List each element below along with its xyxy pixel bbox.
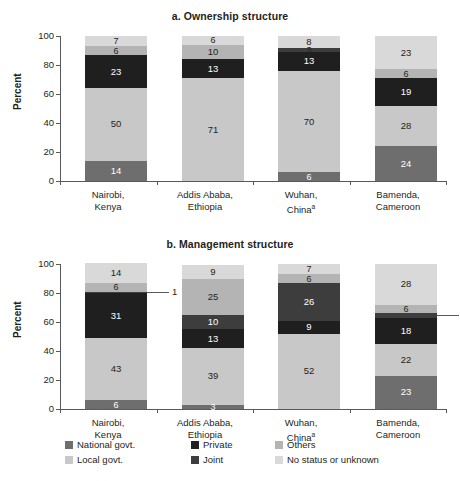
- stacked-bar[interactable]: 9251013393: [182, 265, 244, 409]
- bar-segment[interactable]: 52: [278, 334, 340, 409]
- x-tick-mark: [446, 409, 447, 413]
- panel-b-plot-area: 020406080100 146314369251013393762695228…: [60, 264, 446, 409]
- chart-panel-ownership-structure: a. Ownership structure Percent 020406080…: [0, 0, 460, 228]
- bar-segment[interactable]: 26: [278, 283, 340, 321]
- legend-swatch-icon: [275, 441, 283, 449]
- segment-value-label: 6: [375, 304, 437, 313]
- bar-segment[interactable]: 22: [375, 344, 437, 376]
- segment-value-label: 8: [278, 37, 340, 47]
- bar-segment[interactable]: 6: [85, 400, 147, 409]
- bar-segment[interactable]: 71: [182, 78, 244, 181]
- legend-swatch-icon: [275, 456, 283, 464]
- bar-segment[interactable]: 23: [375, 36, 437, 69]
- panel-b-y-axis-label: Percent: [12, 301, 23, 338]
- bar-segment[interactable]: 6: [278, 172, 340, 181]
- segment-value-label: 10: [182, 47, 244, 57]
- bar-segment[interactable]: 14: [85, 161, 147, 181]
- legend-item[interactable]: Private: [191, 439, 261, 450]
- segment-value-label: 18: [375, 326, 437, 336]
- y-tick-mark: [56, 94, 60, 95]
- bar-segment[interactable]: 6: [375, 69, 437, 78]
- bar-segment[interactable]: 8: [278, 36, 340, 48]
- bar-segment[interactable]: 10: [182, 315, 244, 330]
- bar-segment[interactable]: 7: [85, 36, 147, 46]
- y-tick-label: 80: [28, 60, 54, 70]
- legend-item[interactable]: Others: [275, 439, 395, 450]
- y-tick-label: 20: [28, 147, 54, 157]
- bar-segment[interactable]: 31: [85, 293, 147, 338]
- segment-value-label: 13: [182, 334, 244, 344]
- bar-segment[interactable]: 28: [375, 106, 437, 147]
- legend-swatch-icon: [191, 456, 199, 464]
- bar-segment[interactable]: 50: [85, 88, 147, 161]
- y-tick-mark: [56, 152, 60, 153]
- bar-segment[interactable]: 14: [85, 263, 147, 283]
- y-tick-mark: [56, 322, 60, 323]
- y-tick-mark: [56, 351, 60, 352]
- legend-swatch-icon: [65, 441, 73, 449]
- chart-legend: National govt.PrivateOthers Local govt.J…: [0, 437, 460, 467]
- segment-value-label: 23: [85, 67, 147, 77]
- bar-segment[interactable]: 6: [85, 46, 147, 55]
- bar-segment[interactable]: 9: [182, 265, 244, 278]
- stacked-bar[interactable]: 7626952: [278, 264, 340, 409]
- bar-segment[interactable]: 43: [85, 338, 147, 400]
- bar-segment[interactable]: 10: [182, 45, 244, 60]
- bar-segment[interactable]: 70: [278, 71, 340, 173]
- bar-segment[interactable]: 9: [278, 321, 340, 334]
- legend-row-1: National govt.PrivateOthers: [0, 437, 460, 452]
- stacked-bar[interactable]: 8313706: [278, 36, 340, 181]
- bar-segment[interactable]: 6: [182, 36, 244, 45]
- stacked-bar[interactable]: 14631436: [85, 263, 147, 409]
- legend-item[interactable]: National govt.: [65, 439, 177, 450]
- segment-value-label: 6: [278, 172, 340, 181]
- category-line-2: Cameroon: [338, 201, 458, 213]
- bar-segment[interactable]: 28: [375, 264, 437, 305]
- stacked-bar[interactable]: 6101371: [182, 36, 244, 181]
- bar-segment[interactable]: 13: [182, 59, 244, 78]
- y-tick-mark: [56, 65, 60, 66]
- segment-value-label: 14: [85, 166, 147, 176]
- bar-segment[interactable]: 13: [182, 329, 244, 348]
- bar-segment[interactable]: 23: [375, 376, 437, 409]
- bar-segment[interactable]: 25: [182, 279, 244, 315]
- x-tick-mark: [157, 181, 158, 185]
- bar-segment[interactable]: 13: [278, 52, 340, 71]
- bar-segment[interactable]: 39: [182, 348, 244, 405]
- annotation-leader-line: [147, 292, 169, 293]
- segment-value-label: 22: [375, 355, 437, 365]
- bar-segment[interactable]: 18: [375, 318, 437, 344]
- stacked-bar[interactable]: 286182223: [375, 264, 437, 409]
- y-tick-label: 0: [28, 404, 54, 414]
- legend-item[interactable]: Local govt.: [65, 454, 177, 465]
- bar-segment[interactable]: 19: [375, 78, 437, 106]
- category-line-1: Bamenda,: [338, 417, 458, 429]
- bar-segment[interactable]: 6: [278, 274, 340, 283]
- y-tick-mark: [56, 293, 60, 294]
- chart-panel-management-structure: b. Management structure Percent 02040608…: [0, 228, 460, 424]
- bar-segment[interactable]: 3: [182, 405, 244, 409]
- segment-value-label: 13: [182, 64, 244, 74]
- legend-item[interactable]: Joint: [191, 454, 261, 465]
- segment-value-label: 14: [85, 268, 147, 278]
- stacked-bar[interactable]: 76235014: [85, 36, 147, 181]
- panel-b-y-axis-line: [60, 264, 61, 409]
- y-tick-label: 0: [28, 176, 54, 186]
- bar-segment[interactable]: 7: [278, 264, 340, 274]
- bar-segment[interactable]: 23: [85, 55, 147, 88]
- y-tick-label: 100: [28, 259, 54, 269]
- panel-b-title: b. Management structure: [0, 238, 460, 250]
- bar-segment[interactable]: 6: [85, 283, 147, 292]
- x-axis-category-label: Bamenda,Cameroon: [338, 189, 458, 212]
- stacked-bar[interactable]: 236192824: [375, 36, 437, 181]
- segment-value-label: 23: [375, 48, 437, 58]
- segment-value-label: 70: [278, 117, 340, 127]
- bar-segment[interactable]: 6: [375, 305, 437, 314]
- segment-value-label: 6: [85, 46, 147, 55]
- segment-value-label: 50: [85, 120, 147, 130]
- bar-segment[interactable]: 24: [375, 146, 437, 181]
- legend-swatch-icon: [65, 456, 73, 464]
- y-tick-mark: [56, 36, 60, 37]
- segment-value-label: 6: [85, 400, 147, 409]
- legend-item[interactable]: No status or unknown: [275, 454, 395, 465]
